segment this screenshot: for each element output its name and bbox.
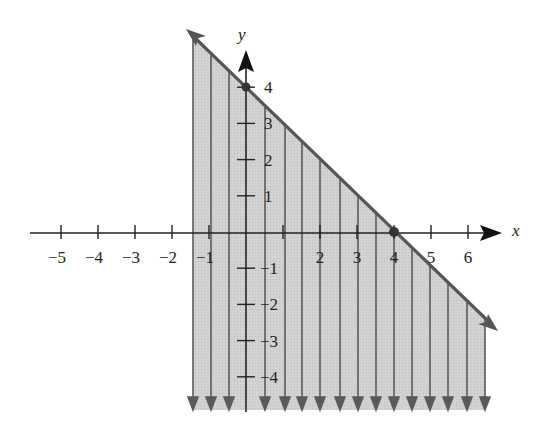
y-tick-label: −2 [260, 295, 278, 314]
shaded-region [193, 36, 485, 410]
x-tick-label: −2 [159, 248, 177, 267]
x-tick-label: 6 [464, 248, 473, 267]
y-tick-label: 2 [264, 151, 273, 170]
y-tick-label: −3 [260, 332, 278, 351]
x-tick-label: −3 [122, 248, 140, 267]
inequality-graph: x −5−4−3−2−123456 y 4321−1−2−3−4 [0, 0, 545, 432]
y-axis-label: y [236, 25, 246, 44]
x-axis-label: x [511, 221, 520, 240]
x-tick-label: 3 [353, 248, 362, 267]
point-x-intercept [389, 227, 399, 237]
x-tick-label: 2 [316, 248, 325, 267]
line-arrow-upleft-icon [186, 29, 206, 46]
x-tick-label: −4 [85, 248, 104, 267]
x-tick-label: −1 [196, 248, 214, 267]
y-tick-label: 1 [264, 187, 273, 206]
point-y-intercept [242, 83, 251, 92]
x-tick-label: 4 [390, 248, 399, 267]
y-tick-label: −1 [260, 259, 278, 278]
y-tick-label: −4 [260, 368, 279, 387]
y-tick-label: 4 [264, 78, 273, 97]
x-tick-label: −5 [48, 248, 66, 267]
y-tick-label: 3 [264, 114, 273, 133]
